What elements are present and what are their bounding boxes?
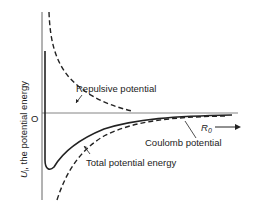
- repulsive-potential-label: Repulsive potential: [76, 83, 156, 94]
- total-potential-energy-label: Total potential energy: [86, 157, 177, 168]
- potential-energy-diagram: Repulsive potential Coulomb potential To…: [0, 0, 256, 219]
- coulomb-potential-label: Coulomb potential: [145, 137, 222, 148]
- total-potential-energy-curve: [45, 51, 232, 169]
- coulomb-leader: [185, 121, 196, 138]
- origin-label: O: [31, 113, 38, 124]
- r0-arrowhead-icon: [235, 124, 241, 130]
- x-axis-label: R0: [201, 122, 212, 134]
- repulsive-potential-curve: [49, 12, 132, 111]
- y-axis-label: Ui, the potential energy: [18, 81, 30, 178]
